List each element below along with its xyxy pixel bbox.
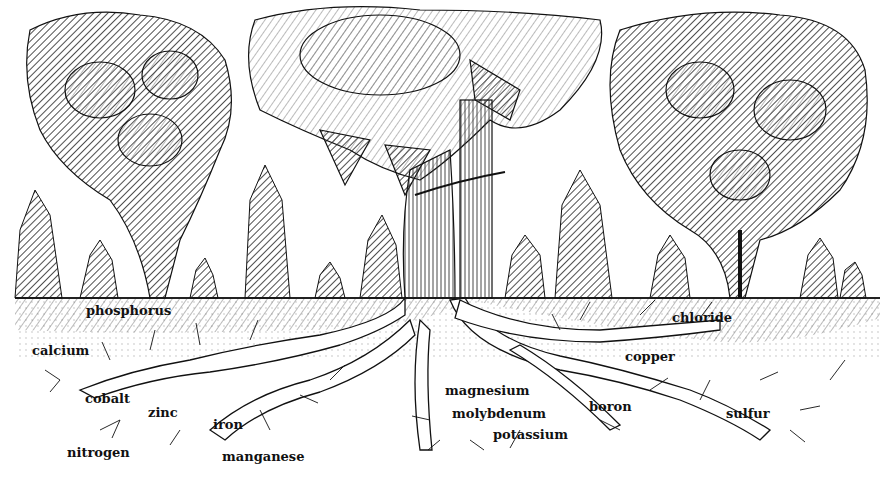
- nutrient-label-nitrogen: nitrogen: [67, 446, 130, 459]
- nutrient-label-calcium: calcium: [32, 344, 89, 357]
- nutrient-root-illustration: phosphorus calcium cobalt zinc nitrogen …: [0, 0, 892, 480]
- nutrient-label-manganese: manganese: [222, 450, 304, 463]
- nutrient-label-molybdenum: molybdenum: [452, 407, 546, 420]
- nutrient-label-sulfur: sulfur: [726, 407, 770, 420]
- nutrient-label-magnesium: magnesium: [445, 384, 529, 397]
- nutrient-label-potassium: potassium: [493, 428, 568, 441]
- nutrient-label-chloride: chloride: [672, 311, 732, 324]
- center-tomato-plant: [249, 7, 602, 298]
- left-tomato-plant: [27, 12, 232, 298]
- nutrient-label-iron: iron: [213, 418, 243, 431]
- nutrient-label-zinc: zinc: [148, 406, 178, 419]
- nutrient-label-boron: boron: [589, 400, 632, 413]
- nutrient-label-cobalt: cobalt: [85, 392, 130, 405]
- nutrient-label-copper: copper: [625, 350, 675, 363]
- nutrient-label-phosphorus: phosphorus: [86, 304, 171, 317]
